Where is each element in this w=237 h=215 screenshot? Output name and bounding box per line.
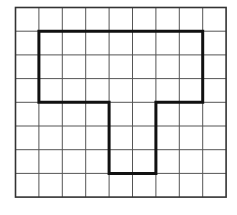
grid-diagram [0, 0, 237, 215]
